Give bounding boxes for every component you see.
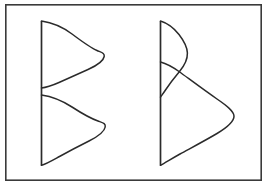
figure-border-frame [6, 5, 261, 180]
distribution-curves-figure [0, 0, 272, 190]
figure-root [0, 0, 272, 190]
